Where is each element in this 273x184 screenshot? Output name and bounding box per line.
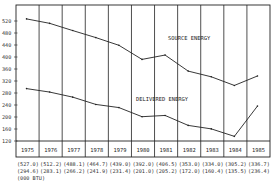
year-label: 1979 xyxy=(113,147,126,153)
source-value-label: (406.5) xyxy=(156,161,178,167)
source-value-label: (512.2) xyxy=(40,161,62,167)
source-value-label: (527.0) xyxy=(17,161,39,167)
delivered-value-label: (236.4) xyxy=(248,168,270,174)
y-tick-label: 480 xyxy=(2,30,11,36)
data-point xyxy=(26,18,28,20)
data-point xyxy=(49,91,51,93)
delivered-value-label: (172.0) xyxy=(179,168,201,174)
year-label: 1975 xyxy=(21,147,34,153)
y-tick-label: 320 xyxy=(2,78,11,84)
energy-line-chart: 120160200240280320360400440480520 197519… xyxy=(0,0,273,184)
delivered-value-label: (135.5) xyxy=(225,168,247,174)
source-value-label: (305.2) xyxy=(225,161,247,167)
value-labels: (527.0)(294.6)(512.2)(283.1)(488.1)(266.… xyxy=(17,161,270,174)
delivered-value-label: (160.4) xyxy=(202,168,224,174)
y-tick-label: 120 xyxy=(2,138,11,144)
y-tick-label: 520 xyxy=(2,18,11,24)
delivered-value-label: (201.0) xyxy=(132,168,154,174)
unit-label: (000 BTU) xyxy=(17,175,45,181)
source-value-label: (336.7) xyxy=(248,161,270,167)
data-point xyxy=(118,45,120,47)
delivered-energy-label: DELIVERED ENERGY xyxy=(136,96,189,102)
data-point xyxy=(164,115,166,117)
y-tick-label: 200 xyxy=(2,114,11,120)
year-label: 1976 xyxy=(44,147,57,153)
delivered-value-label: (283.1) xyxy=(40,168,62,174)
y-tick-label: 240 xyxy=(2,102,11,108)
data-point xyxy=(210,76,212,78)
year-label: 1981 xyxy=(160,147,173,153)
data-point xyxy=(164,54,166,56)
data-point xyxy=(187,70,189,72)
y-tick-label: 400 xyxy=(2,54,11,60)
y-tick-label: 360 xyxy=(2,66,11,72)
delivered-value-label: (266.2) xyxy=(63,168,85,174)
y-axis: 120160200240280320360400440480520 xyxy=(2,18,18,144)
data-point xyxy=(257,75,259,77)
data-point xyxy=(49,23,51,25)
year-label: 1982 xyxy=(183,147,196,153)
delivered-value-label: (205.2) xyxy=(156,168,178,174)
data-point xyxy=(95,37,97,39)
source-energy-label: SOURCE ENERGY xyxy=(168,35,211,41)
year-label: 1985 xyxy=(252,147,265,153)
data-point xyxy=(95,104,97,106)
chart-frame xyxy=(16,5,270,157)
data-point xyxy=(141,116,143,118)
series-lines xyxy=(26,18,259,137)
y-tick-label: 280 xyxy=(2,90,11,96)
y-tick-label: 440 xyxy=(2,42,11,48)
source-energy-line xyxy=(27,19,258,86)
data-point xyxy=(118,107,120,109)
y-tick-label: 160 xyxy=(2,126,11,132)
plot-border xyxy=(16,5,270,157)
data-point xyxy=(257,105,259,107)
data-point xyxy=(141,59,143,61)
year-label: 1983 xyxy=(206,147,219,153)
source-value-label: (439.0) xyxy=(109,161,131,167)
data-point xyxy=(187,125,189,127)
source-value-label: (353.0) xyxy=(179,161,201,167)
source-value-label: (488.1) xyxy=(63,161,85,167)
data-point xyxy=(26,88,28,90)
year-label: 1984 xyxy=(229,147,242,153)
data-point xyxy=(234,85,236,87)
data-point xyxy=(234,136,236,138)
delivered-value-label: (294.6) xyxy=(17,168,39,174)
year-label: 1978 xyxy=(90,147,103,153)
year-row: 1975197619771978197919801981198219831984… xyxy=(21,147,265,153)
data-point xyxy=(210,128,212,130)
year-label: 1977 xyxy=(67,147,80,153)
data-point xyxy=(72,96,74,98)
data-point xyxy=(72,30,74,32)
source-value-label: (392.0) xyxy=(132,161,154,167)
year-label: 1980 xyxy=(137,147,150,153)
year-gridlines xyxy=(39,5,247,157)
source-value-label: (334.0) xyxy=(202,161,224,167)
source-value-label: (464.7) xyxy=(86,161,108,167)
delivered-value-label: (231.4) xyxy=(109,168,131,174)
delivered-value-label: (241.9) xyxy=(86,168,108,174)
